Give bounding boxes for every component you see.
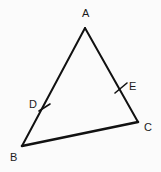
vertex-label-b: B [10,152,18,163]
geometry-figure: A B C D E [0,0,161,172]
point-label-e: E [129,81,137,92]
triangle-diagram-svg [0,0,161,172]
triangle-side-ac [85,28,138,122]
vertex-label-c: C [144,122,152,133]
triangle-side-ab [22,28,85,146]
triangle-side-bc [22,122,138,146]
point-label-d: D [29,99,37,110]
vertex-label-a: A [82,8,90,19]
